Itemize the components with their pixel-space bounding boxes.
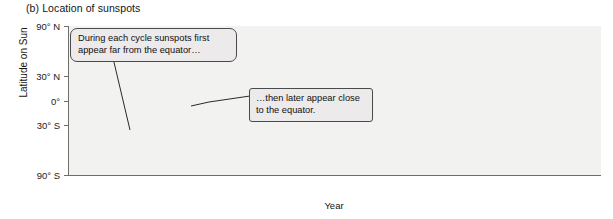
y-axis-tick-label: 90° S [37,170,60,181]
annotation-high-latitude: During each cycle sunspots first appear … [70,28,237,62]
y-axis-tick-label: 30° S [37,120,60,131]
annotation-low-latitude: …then later appear close to the equator. [249,88,373,122]
y-axis-tick-labels: 90° N30° N0°30° S90° S [0,26,64,175]
x-axis-title: Year [68,200,600,211]
y-axis-tick-label: 0° [51,95,60,106]
page-title: (b) Location of sunspots [26,2,140,14]
sunspot-butterfly-figure: (b) Location of sunspots Latitude on Sun… [0,0,613,219]
y-axis-tick-label: 90° N [36,21,60,32]
x-axis-tick-labels [68,178,600,194]
y-axis-tick-label: 30° N [36,70,60,81]
